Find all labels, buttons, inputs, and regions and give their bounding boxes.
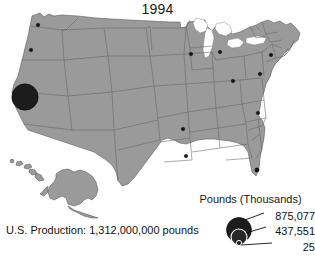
- symbol-pennsylvania: [258, 72, 262, 76]
- symbol-oregon: [29, 48, 33, 52]
- symbol-michigan: [218, 50, 222, 54]
- symbol-north-carolina: [256, 111, 260, 115]
- symbol-washington: [36, 23, 40, 27]
- symbol-new-york: [269, 53, 273, 57]
- leader-line-small: [241, 243, 272, 245]
- symbol-ohio: [231, 79, 235, 83]
- legend-value-large: 875,077: [275, 210, 315, 222]
- legend-value-medium: 437,551: [275, 225, 315, 237]
- symbol-arkansas: [181, 127, 185, 131]
- symbol-louisiana: [184, 154, 188, 158]
- legend-circle-small: [236, 240, 241, 245]
- symbol-california: [12, 84, 38, 110]
- production-map-figure: 1994: [0, 0, 315, 256]
- leader-line-large: [242, 213, 264, 221]
- legend-title: Pounds (Thousands): [186, 193, 315, 205]
- legend-value-small: 25: [303, 241, 315, 253]
- symbol-wisconsin: [189, 52, 193, 56]
- production-total-label: U.S. Production: 1,312,000,000 pounds: [6, 224, 199, 236]
- legend: Pounds (Thousands) 875,077 437,551 25: [186, 193, 315, 256]
- symbol-florida: [255, 168, 259, 172]
